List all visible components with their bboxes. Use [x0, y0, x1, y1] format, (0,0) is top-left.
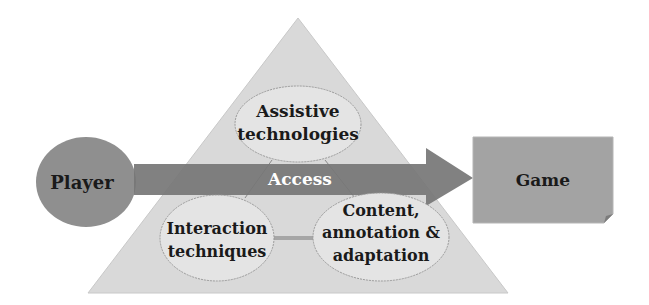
game-label: Game: [516, 170, 571, 190]
player-label: Player: [50, 172, 114, 193]
node-label-line: techniques: [168, 242, 267, 261]
game-node: Game: [473, 137, 613, 223]
node-label-line: Interaction: [167, 219, 268, 238]
node-label-line: technologies: [237, 124, 359, 144]
node-label-line: annotation &: [322, 223, 440, 242]
access-label: Access: [267, 169, 332, 189]
node-label-line: adaptation: [333, 246, 430, 265]
diagram-canvas: Assistive technologies Player Access Int…: [0, 0, 649, 305]
node-label-line: Content,: [342, 201, 419, 220]
node-content-annotation-adaptation: Content, annotation & adaptation: [313, 193, 449, 281]
player-node: Player: [36, 137, 136, 227]
node-label-line: Assistive: [255, 101, 340, 121]
node-interaction-techniques: Interaction techniques: [160, 195, 274, 281]
node-assistive-technologies: Assistive technologies: [235, 86, 361, 162]
